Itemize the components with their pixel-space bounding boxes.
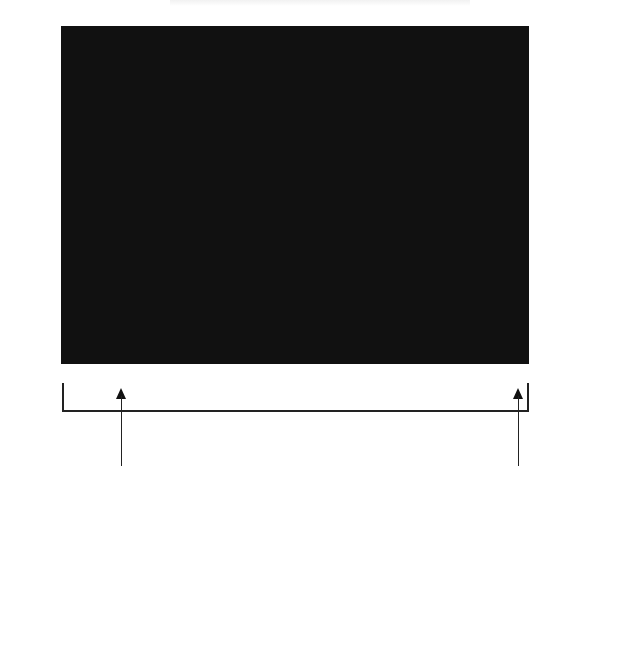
bracket-right-tick bbox=[527, 383, 529, 411]
knitting-chart-grid bbox=[61, 26, 529, 364]
cropped-title-strip bbox=[170, 0, 470, 6]
arrow-shaft-beg bbox=[518, 396, 520, 466]
bracket-horizontal bbox=[62, 410, 529, 412]
arrow-shaft-end bbox=[121, 396, 123, 466]
bracket-left-tick bbox=[62, 383, 64, 411]
